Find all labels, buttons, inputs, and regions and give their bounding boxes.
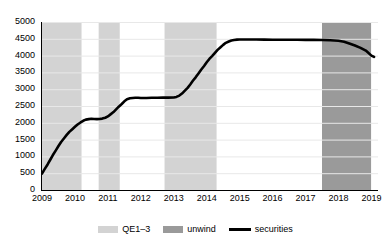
- legend-box-swatch-qe: [98, 226, 118, 233]
- x-axis-tick-label: 2010: [65, 193, 85, 204]
- y-axis-tick-label: 1000: [15, 151, 35, 160]
- x-axis-tick-label: 2019: [361, 193, 381, 204]
- legend-item-qe[interactable]: QE1–3: [98, 224, 150, 234]
- x-axis: 2009201020112012201320142015201620172018…: [0, 193, 391, 209]
- y-axis-tick-label: 3500: [15, 67, 35, 76]
- legend-item-securities[interactable]: securities: [229, 224, 293, 234]
- y-axis-tick-label: 2000: [15, 118, 35, 127]
- chart-container: 0500100015002000250030003500400045005000…: [0, 0, 391, 244]
- y-axis-tick-label: 1500: [15, 135, 35, 144]
- x-axis-tick-label: 2015: [230, 193, 250, 204]
- x-axis-tick-label: 2011: [98, 193, 117, 204]
- legend-label-unwind: unwind: [187, 224, 216, 234]
- y-axis-tick-label: 500: [20, 168, 35, 177]
- y-axis-tick-label: 3000: [15, 84, 35, 93]
- legend-box-swatch-unwind: [163, 226, 183, 233]
- x-axis-tick-label: 2012: [131, 193, 151, 204]
- legend-label-securities: securities: [255, 224, 293, 234]
- x-axis-tick-label: 2016: [263, 193, 283, 204]
- x-axis-tick-label: 2009: [32, 193, 52, 204]
- y-axis-tick-label: 4500: [15, 34, 35, 43]
- x-axis-tick-label: 2017: [296, 193, 316, 204]
- plot-area: [42, 22, 378, 190]
- chart-legend: QE1–3unwindsecurities: [0, 222, 391, 236]
- x-axis-tick-label: 2013: [164, 193, 184, 204]
- x-axis-tick-label: 2018: [328, 193, 348, 204]
- legend-line-swatch-securities: [229, 228, 251, 231]
- plot-svg: [42, 22, 378, 190]
- x-axis-tick-label: 2014: [197, 193, 217, 204]
- legend-item-unwind[interactable]: unwind: [163, 224, 216, 234]
- y-axis-tick-label: 4000: [15, 51, 35, 60]
- y-axis-tick-label: 5000: [15, 17, 35, 26]
- y-axis-tick-label: 2500: [15, 101, 35, 110]
- x-axis-line: [41, 190, 378, 191]
- legend-label-qe: QE1–3: [122, 224, 150, 234]
